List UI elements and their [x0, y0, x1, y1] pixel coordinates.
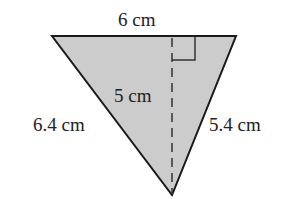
left-side-label: 6.4 cm — [33, 115, 85, 134]
triangle-diagram: 6 cm 5 cm 6.4 cm 5.4 cm — [0, 0, 299, 199]
height-label: 5 cm — [114, 86, 151, 105]
right-side-label: 5.4 cm — [209, 115, 261, 134]
top-side-label: 6 cm — [118, 10, 155, 29]
